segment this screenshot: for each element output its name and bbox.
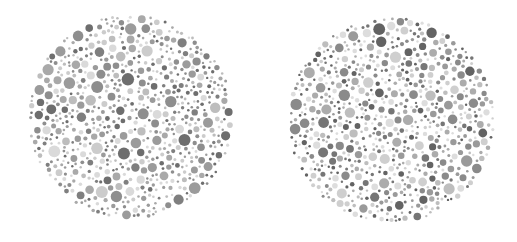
dot-pattern-right (0, 0, 517, 242)
plate-right (0, 0, 517, 242)
